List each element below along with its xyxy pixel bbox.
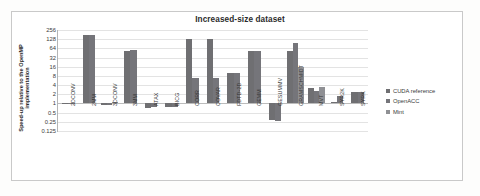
y-axis-tick-label: 0.125 [41, 128, 56, 134]
y-axis-tick-labels: 25612864321684210.50.250.125 [30, 30, 56, 131]
plot-area: 2DCONV2MM3DCONV3MMATAXBICGCORRCOVARFDTD-… [58, 30, 368, 131]
legend-label: CUDA reference [393, 88, 435, 94]
y-axis-tick-label: 256 [46, 27, 56, 33]
bar-group: 2DCONV [58, 30, 79, 131]
y-axis-tick-label: 64 [50, 45, 56, 51]
bar-group: 3MM [120, 30, 141, 131]
chart-title: Increased-size dataset [0, 15, 480, 24]
x-axis-tick-label: GRAMSCHMIDT [298, 65, 304, 106]
x-axis-tick-label: FDTD-2D [236, 83, 242, 106]
x-axis-tick-label: ATAX [153, 93, 159, 106]
bar-group: SYR2K [327, 30, 348, 131]
bar-group: GESUMMV [265, 30, 286, 131]
x-axis-tick-label: GESUMMV [277, 78, 283, 106]
x-axis-tick-label: 2DCONV [70, 84, 76, 107]
bar-group: BICG [161, 30, 182, 131]
chart-legend: CUDA referenceOpenACCMint [386, 88, 472, 119]
y-axis-tick-label: 0.5 [48, 110, 56, 116]
x-axis-tick-label: CORR [194, 90, 200, 106]
bar-group: CORR [182, 30, 203, 131]
y-axis-tick-label: 1 [53, 100, 56, 106]
chart-figure: Increased-size dataset Speed-up relative… [0, 0, 480, 196]
legend-label: OpenACC [393, 98, 419, 104]
y-axis-tick-label: 8 [53, 73, 56, 79]
legend-item[interactable]: OpenACC [386, 98, 472, 104]
x-axis-tick-label: 3DCONV [112, 84, 118, 107]
y-axis-tick-label: 0.25 [45, 119, 56, 125]
legend-swatch-icon [386, 89, 390, 93]
bar-group: MVT [306, 30, 327, 131]
legend-item[interactable]: Mint [386, 109, 472, 115]
y-axis-tick-label: 128 [46, 36, 56, 42]
x-axis-tick-label: SYRK [360, 92, 366, 107]
x-axis-tick-label: BICG [174, 93, 180, 106]
x-axis-tick-label: 3MM [132, 94, 138, 106]
bar [275, 103, 281, 120]
y-axis-tick-label: 16 [50, 64, 56, 70]
y-axis-tick-label: 32 [50, 55, 56, 61]
bar-group: 3DCONV [99, 30, 120, 131]
bar-group: SYRK [347, 30, 368, 131]
x-axis-tick-label: 2MM [91, 94, 97, 106]
legend-swatch-icon [386, 110, 390, 114]
legend-item[interactable]: CUDA reference [386, 88, 472, 94]
bar-group: GEMM [244, 30, 265, 131]
legend-swatch-icon [386, 99, 390, 103]
y-axis-tick-label: 2 [53, 91, 56, 97]
bar-group: 2MM [79, 30, 100, 131]
x-axis-tick-label: MVT [318, 95, 324, 106]
bar-group: COVAR [203, 30, 224, 131]
legend-label: Mint [393, 109, 404, 115]
bar-group: FDTD-2D [223, 30, 244, 131]
bar-group: GRAMSCHMIDT [285, 30, 306, 131]
x-axis-tick-label: COVAR [215, 87, 221, 106]
y-axis-tick-label: 4 [53, 82, 56, 88]
x-axis-tick-label: GEMM [256, 90, 262, 107]
gridline [58, 131, 368, 132]
bar-group: ATAX [141, 30, 162, 131]
x-axis-tick-label: SYR2K [339, 89, 345, 107]
